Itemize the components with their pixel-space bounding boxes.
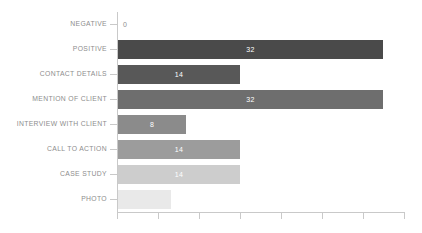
bar-rows: NEGATIVE0POSITIVE32CONTACT DETAILS14MENT… <box>0 12 422 212</box>
bar-chart: NEGATIVE0POSITIVE32CONTACT DETAILS14MENT… <box>0 0 422 233</box>
bar-track <box>118 187 405 212</box>
bar-track: 32 <box>118 37 405 62</box>
bar-row[interactable]: INTERVIEW WITH CLIENT8 <box>0 112 422 137</box>
bar[interactable] <box>118 190 171 209</box>
bar-row[interactable]: POSITIVE32 <box>0 37 422 62</box>
bar-row[interactable]: PHOTO <box>0 187 422 212</box>
bar-row[interactable]: CONTACT DETAILS14 <box>0 62 422 87</box>
x-axis-tick <box>199 212 200 219</box>
bar-value-label: 0 <box>118 12 163 37</box>
y-axis-tick <box>110 149 117 150</box>
bar-row[interactable]: CALL TO ACTION14 <box>0 137 422 162</box>
category-label: INTERVIEW WITH CLIENT <box>0 121 107 128</box>
x-axis-tick <box>363 212 364 219</box>
bar-track: 14 <box>118 62 405 87</box>
x-axis-tick <box>240 212 241 219</box>
x-axis-tick <box>281 212 282 219</box>
bar-track: 32 <box>118 87 405 112</box>
category-label: MENTION OF CLIENT <box>0 96 107 103</box>
bar-value-label: 14 <box>118 137 240 162</box>
x-axis-tick <box>404 212 405 219</box>
x-axis-ticks <box>0 212 422 222</box>
x-axis-tick <box>117 212 118 219</box>
bar-value-label: 14 <box>118 162 240 187</box>
bar-value-label: 8 <box>118 112 186 137</box>
category-label: NEGATIVE <box>0 21 107 28</box>
category-label: POSITIVE <box>0 46 107 53</box>
category-label: CASE STUDY <box>0 171 107 178</box>
y-axis-tick <box>110 99 117 100</box>
y-axis-tick <box>110 174 117 175</box>
category-label: CALL TO ACTION <box>0 146 107 153</box>
bar-row[interactable]: CASE STUDY14 <box>0 162 422 187</box>
bar-track: 14 <box>118 137 405 162</box>
y-axis-tick <box>110 124 117 125</box>
bar-track: 0 <box>118 12 405 37</box>
bar-track: 8 <box>118 112 405 137</box>
y-axis-tick <box>110 74 117 75</box>
bar-value-label: 14 <box>118 62 240 87</box>
y-axis-tick <box>110 199 117 200</box>
bar-track: 14 <box>118 162 405 187</box>
category-label: CONTACT DETAILS <box>0 71 107 78</box>
bar-value-label: 32 <box>118 37 383 62</box>
category-label: PHOTO <box>0 196 107 203</box>
x-axis-tick <box>158 212 159 219</box>
y-axis-tick <box>110 49 117 50</box>
bar-row[interactable]: MENTION OF CLIENT32 <box>0 87 422 112</box>
bar-row[interactable]: NEGATIVE0 <box>0 12 422 37</box>
x-axis-tick <box>322 212 323 219</box>
bar-value-label: 32 <box>118 87 383 112</box>
y-axis-tick <box>110 24 117 25</box>
